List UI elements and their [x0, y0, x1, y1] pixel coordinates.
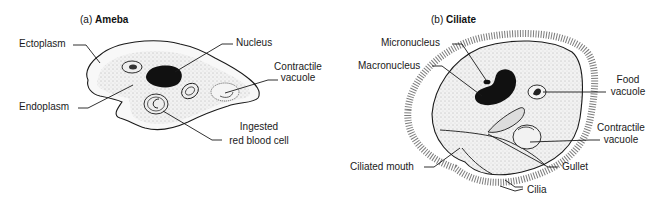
label-ciliated-mouth: Ciliated mouth: [350, 161, 414, 172]
panel-b-title: (b) Ciliate: [431, 14, 476, 25]
label-food-line2: vacuole: [606, 86, 650, 97]
label-food-line1: Food: [606, 74, 650, 85]
label-contractile-b-line2: vacuole: [591, 134, 651, 145]
label-ingested-line2: red blood cell: [224, 135, 294, 146]
label-contractile-vacuole-a: Contractile vacuole: [268, 61, 328, 83]
label-food-vacuole: Food vacuole: [606, 74, 650, 97]
label-ectoplasm: Ectoplasm: [19, 38, 66, 49]
label-contractile-line2: vacuole: [268, 72, 328, 83]
ciliate-body: [432, 41, 582, 175]
panel-a-prefix: (a): [80, 14, 92, 25]
label-micronucleus: Micronucleus: [381, 37, 440, 48]
panel-b-name: Ciliate: [446, 14, 476, 25]
panel-a-name: Ameba: [95, 14, 128, 25]
label-cilia: Cilia: [527, 184, 546, 195]
ameba-nucleus: [146, 66, 182, 88]
label-ingested-rbc: Ingested red blood cell: [224, 121, 294, 146]
label-macronucleus: Macronucleus: [358, 60, 420, 71]
panel-a-title: (a) Ameba: [80, 14, 128, 25]
label-gullet: Gullet: [562, 161, 588, 172]
diagram-canvas: [0, 0, 666, 212]
panel-b-prefix: (b): [431, 14, 443, 25]
label-endoplasm: Endoplasm: [19, 101, 69, 112]
label-contractile-line1: Contractile: [268, 61, 328, 72]
label-contractile-b-line1: Contractile: [591, 122, 651, 133]
label-ingested-line1: Ingested: [224, 121, 294, 132]
ameba-contractile-vacuole: [211, 83, 239, 101]
ciliate-micronucleus: [484, 80, 491, 85]
ciliate-contractile-vacuole: [513, 125, 541, 149]
label-contractile-vacuole-b: Contractile vacuole: [591, 122, 651, 145]
label-nucleus: Nucleus: [236, 37, 272, 48]
